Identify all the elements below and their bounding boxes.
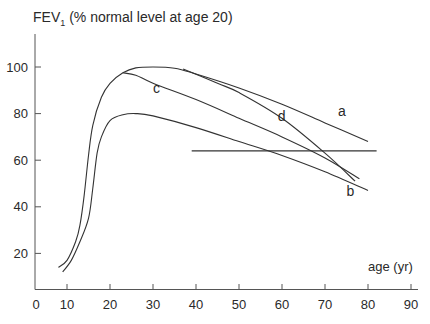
x-tick-label: 80 [361, 297, 375, 312]
x-tick-label: 60 [275, 297, 289, 312]
y-axis-title: FEV1 (% normal level at age 20) [33, 9, 233, 28]
y-tick-label: 100 [6, 60, 28, 75]
x-tick-label: 30 [146, 297, 160, 312]
x-tick-label: 50 [232, 297, 246, 312]
curve-label-c: c [153, 80, 160, 96]
x-tick-label: 10 [60, 297, 74, 312]
curve-b [63, 114, 368, 272]
y-tick-label: 40 [14, 199, 28, 214]
fev1-age-chart: FEV1 (% normal level at age 20) 01020304… [0, 0, 430, 324]
x-tick-label: 40 [189, 297, 203, 312]
curve-label-a: a [338, 103, 346, 119]
x-axis-title: age (yr) [368, 259, 413, 274]
x-tick-label: 90 [404, 297, 418, 312]
curves [58, 67, 376, 272]
series-labels: acdb [153, 80, 355, 200]
axes: 010203040506070809020406080100 [6, 34, 418, 312]
curve-label-d: d [278, 108, 286, 124]
y-tick-label: 20 [14, 246, 28, 261]
y-tick-label: 60 [14, 153, 28, 168]
y-tick-label: 80 [14, 106, 28, 121]
x-tick-label: 0 [32, 297, 39, 312]
x-tick-label: 70 [318, 297, 332, 312]
x-tick-label: 20 [103, 297, 117, 312]
curve-label-b: b [347, 183, 355, 199]
curve-a [58, 67, 368, 267]
